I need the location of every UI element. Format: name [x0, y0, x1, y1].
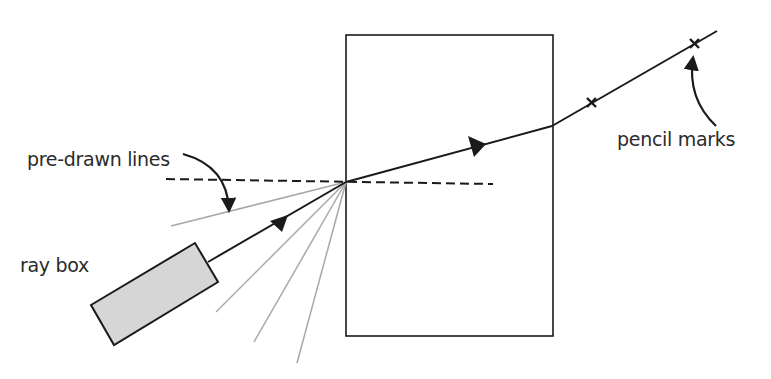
- pencil-marks-label: pencil marks: [617, 128, 735, 150]
- refracted-ray-arrow-icon: [468, 136, 486, 157]
- normal-dashed-line: [166, 179, 493, 184]
- guide-line-4: [297, 182, 346, 363]
- guide-line-3: [254, 182, 346, 342]
- refraction-diagram: [0, 0, 771, 379]
- pencil-mark-2-icon: [690, 39, 699, 48]
- ray-box: [91, 243, 218, 345]
- pencil-marks-pointer-arrow-icon: [692, 58, 716, 126]
- glass-block: [346, 35, 553, 336]
- guide-line-1: [171, 182, 346, 226]
- ray-box-label: ray box: [20, 254, 89, 276]
- refracted-ray: [346, 126, 552, 182]
- pre-drawn-lines-pointer-arrow-icon: [183, 154, 229, 210]
- pre-drawn-lines-label: pre-drawn lines: [27, 148, 170, 170]
